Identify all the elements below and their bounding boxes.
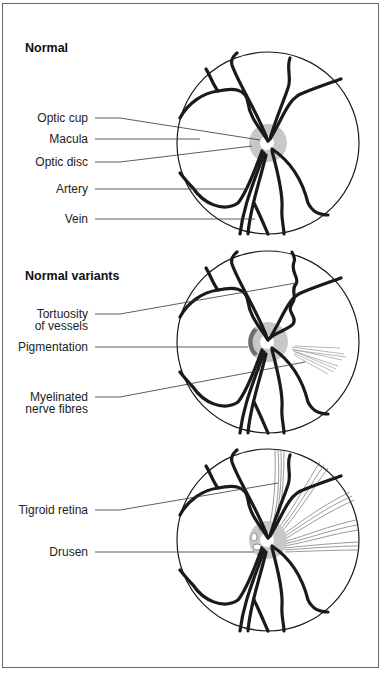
fundus-diagrams	[0, 0, 385, 673]
label-drusen: Drusen	[49, 546, 88, 558]
fundus-normal	[177, 52, 359, 234]
label-of-vessels: of vessels	[35, 320, 88, 332]
fundus-tigroid-drusen	[177, 449, 359, 631]
panel-title-normal: Normal	[25, 41, 68, 55]
label-optic-disc: Optic disc	[35, 156, 88, 168]
label-artery: Artery	[56, 183, 88, 195]
panel-title-normal-variants: Normal variants	[25, 269, 119, 283]
fundus-normal-variants	[177, 251, 359, 433]
label-tigroid-retina: Tigroid retina	[18, 504, 88, 516]
label-macula: Macula	[49, 133, 88, 145]
label-vein: Vein	[65, 213, 88, 225]
label-pigmentation: Pigmentation	[18, 341, 88, 353]
label-optic-cup: Optic cup	[37, 112, 88, 124]
label-nerve-fibres: nerve fibres	[25, 403, 88, 415]
